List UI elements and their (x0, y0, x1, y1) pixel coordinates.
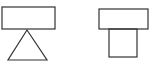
left-rectangle (2, 7, 55, 29)
diagram-canvas (0, 0, 152, 68)
right-square (109, 29, 137, 57)
right-figure (99, 9, 148, 57)
left-figure (2, 7, 55, 60)
right-rectangle (99, 9, 148, 29)
left-triangle (8, 30, 47, 60)
